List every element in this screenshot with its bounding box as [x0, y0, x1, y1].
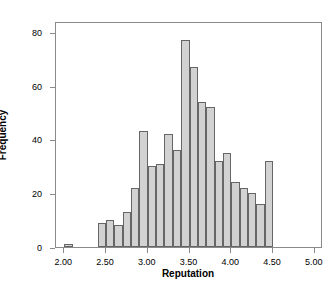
x-tick-label: 3.00	[138, 257, 156, 267]
histogram-bar	[223, 153, 231, 247]
histogram-bar	[139, 131, 147, 247]
y-tick-label: 60	[32, 82, 42, 92]
histogram-bar	[131, 188, 139, 247]
x-tick-label: 2.00	[55, 257, 73, 267]
x-tick-mark	[189, 248, 190, 253]
histogram-bar	[98, 223, 106, 247]
histogram-bar	[173, 150, 181, 247]
y-tick-label: 40	[32, 135, 42, 145]
x-axis-title: Reputation	[162, 268, 214, 279]
x-tick-label: 4.00	[221, 257, 239, 267]
histogram-bar	[181, 40, 189, 247]
x-tick-mark	[230, 248, 231, 253]
histogram-bar	[248, 193, 256, 247]
histogram-bar	[265, 161, 273, 247]
x-tick-label: 3.50	[180, 257, 198, 267]
histogram-bar	[190, 67, 198, 247]
x-tick-label: 4.50	[263, 257, 281, 267]
histogram-bar	[256, 204, 264, 247]
histogram-bar	[64, 244, 72, 247]
histogram-bar	[123, 212, 131, 247]
bars-layer	[56, 23, 321, 247]
histogram-bar	[215, 161, 223, 247]
histogram-bar	[206, 107, 214, 247]
plot-area	[55, 22, 322, 248]
x-tick-mark	[147, 248, 148, 253]
x-tick-mark	[105, 248, 106, 253]
x-tick-label: 2.50	[96, 257, 114, 267]
x-tick-mark	[63, 248, 64, 253]
histogram-bar	[231, 182, 239, 247]
histogram-figure: 020406080 Frequency 2.002.503.003.504.00…	[0, 0, 335, 292]
histogram-bar	[156, 164, 164, 247]
histogram-bar	[114, 225, 122, 247]
histogram-bar	[106, 220, 114, 247]
x-tick-label: 5.00	[305, 257, 323, 267]
histogram-bar	[164, 134, 172, 247]
x-tick-mark	[314, 248, 315, 253]
histogram-bar	[198, 102, 206, 247]
histogram-bar	[240, 188, 248, 247]
y-axis-title: Frequency	[0, 110, 8, 161]
y-tick-label: 80	[32, 28, 42, 38]
histogram-bar	[148, 166, 156, 247]
y-tick-label: 20	[32, 189, 42, 199]
x-tick-mark	[272, 248, 273, 253]
